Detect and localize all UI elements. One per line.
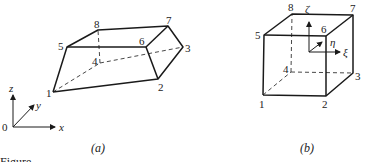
xi-label: ξ: [343, 46, 348, 59]
node-2: 2: [322, 98, 328, 110]
node-3: 3: [355, 70, 361, 82]
node-8: 8: [288, 1, 294, 13]
node-7: 7: [350, 2, 356, 14]
node-5: 5: [255, 29, 261, 41]
node-5: 5: [58, 40, 64, 52]
caption-a: (a): [91, 141, 105, 155]
x-label: x: [58, 121, 64, 133]
footer-fragment: Figure: [0, 155, 31, 162]
node-1: 1: [259, 98, 265, 110]
node-1: 1: [46, 87, 52, 99]
hidden-edge-4-3: [291, 72, 353, 73]
global-axes: 0 z y x: [2, 82, 64, 133]
node-7: 7: [166, 14, 172, 26]
reference-cube: [263, 14, 353, 96]
node-6: 6: [139, 35, 145, 47]
eta-axis-arrow: [309, 42, 322, 52]
outline: [53, 26, 183, 92]
hexahedral-element-figure: 1 2 3 4 5 6 7 8 0 z y x (a) 1 2 3 4 5 6 …: [0, 0, 366, 162]
distorted-hexahedron: [53, 26, 183, 92]
node-6: 6: [321, 23, 327, 35]
node-8: 8: [94, 18, 100, 30]
z-label: z: [8, 82, 14, 94]
origin-label: 0: [2, 121, 8, 133]
node-4: 4: [92, 55, 98, 67]
hidden-edge-4-8: [291, 14, 292, 72]
y-axis-arrow: [13, 105, 34, 127]
y-label: y: [35, 99, 41, 111]
node-3: 3: [185, 42, 191, 54]
hidden-edge-4-3: [100, 47, 183, 63]
edge-6-7: [146, 26, 168, 47]
edge-5-6: [264, 35, 326, 36]
eta-label: η: [330, 36, 335, 48]
hidden-edge-1-4: [263, 72, 291, 95]
caption-b: (b): [300, 141, 314, 155]
edge-6-7: [326, 15, 353, 36]
node-4: 4: [283, 63, 289, 75]
node-2: 2: [158, 81, 164, 93]
